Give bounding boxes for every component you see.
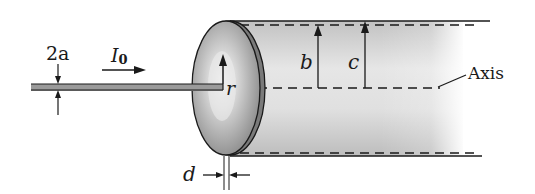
current-label: I0 [110,44,128,67]
arrow-right-icon [134,66,146,74]
arrow-down-icon [55,76,61,84]
arrow-up-icon [55,90,61,98]
thickness-label: d [183,162,196,186]
cylinder [228,21,490,156]
arrow-left-icon [229,172,237,178]
thickness-dimension [203,156,250,190]
current-arrow [102,66,146,74]
arrow-right-icon [216,172,224,178]
radius-b-label: b [300,50,313,74]
coaxial-diagram: 2a I0 r b c Axis d [0,0,535,194]
radius-c-label: c [348,50,359,74]
axis-label: Axis [467,63,504,83]
wire [31,84,223,91]
wire-diameter-label: 2a [46,42,69,64]
